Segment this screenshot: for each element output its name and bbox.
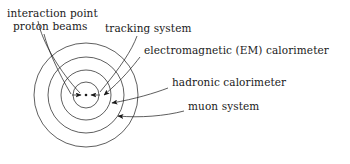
label-electromagnetic-calorimeter: electromagnetic (EM) calorimeter [144,45,329,56]
leader-line-tracking-system [100,36,137,92]
leader-line-muon-system [118,111,184,117]
leader-line-hadronic-calorimeter [112,88,168,103]
label-hadronic-calorimeter: hadronic calorimeter [172,77,286,88]
label-muon-system: muon system [188,101,259,112]
leader-lines [38,21,184,117]
label-interaction-point: interaction point [7,8,98,19]
detector-diagram-figure: interaction point proton beams tracking … [0,0,350,164]
label-proton-beams: proton beams [13,21,87,32]
interaction-point-dot [85,94,88,97]
label-tracking-system: tracking system [105,23,192,34]
